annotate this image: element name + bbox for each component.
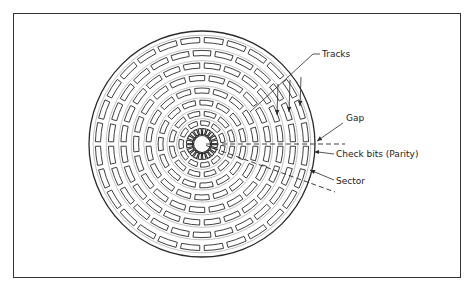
sector-block xyxy=(230,162,241,175)
sector-block xyxy=(95,123,102,142)
sector-block xyxy=(182,179,196,187)
sector-block xyxy=(254,204,271,219)
sector-block xyxy=(227,236,246,247)
label-tracks: Tracks xyxy=(321,49,351,59)
sector-block xyxy=(170,78,186,88)
sector-block xyxy=(95,146,102,165)
sector-block xyxy=(204,243,223,250)
sector-block xyxy=(216,103,229,114)
gap-arrow-arrowhead xyxy=(317,136,322,141)
sector-block xyxy=(120,209,137,226)
sector-block xyxy=(120,62,137,79)
sector-block xyxy=(276,125,283,142)
sector-block xyxy=(263,126,270,142)
sector-block xyxy=(227,130,234,142)
sector-block xyxy=(188,111,200,118)
sector-block xyxy=(242,110,253,125)
sector-block xyxy=(175,160,186,171)
sector-block xyxy=(251,146,258,161)
sector-block xyxy=(243,92,257,107)
sector-block xyxy=(218,117,229,128)
label-sector: Sector xyxy=(336,176,365,186)
disk-diagram: Tracks Gap Check bits (Parity) Sector xyxy=(0,0,472,288)
sector-block xyxy=(182,101,196,109)
sector-block xyxy=(224,66,241,77)
sector-block xyxy=(242,199,258,213)
sector-block xyxy=(195,195,210,200)
sector-block xyxy=(227,146,234,158)
sector-block xyxy=(188,121,198,128)
sector-block xyxy=(254,68,271,83)
sector-block xyxy=(181,243,200,250)
sector-block xyxy=(161,178,175,191)
sector-block xyxy=(99,100,110,119)
sector-block xyxy=(158,236,177,247)
label-check-bits: Check bits (Parity) xyxy=(336,149,418,159)
sector-block xyxy=(227,41,246,52)
sector-block xyxy=(201,121,210,127)
track-arrow-arrowhead xyxy=(275,110,279,115)
sector-block xyxy=(175,117,186,128)
sector-block xyxy=(235,57,253,70)
check-bits-line xyxy=(318,152,334,154)
sector-block xyxy=(204,37,223,44)
sector-block xyxy=(189,206,205,212)
sector-block xyxy=(124,166,135,183)
sector-block xyxy=(269,105,280,122)
sector-block xyxy=(169,146,176,158)
sector-block xyxy=(112,167,123,185)
sector-block xyxy=(151,218,169,231)
sector-block xyxy=(153,86,168,100)
sector-block xyxy=(183,218,200,225)
sector-block xyxy=(216,174,229,185)
sector-block xyxy=(150,110,161,125)
sector-block xyxy=(204,218,221,225)
sector-block xyxy=(195,88,210,93)
sector-block xyxy=(288,124,295,142)
sector-block xyxy=(242,75,258,89)
sector-block xyxy=(112,103,123,121)
sector-block xyxy=(201,162,210,168)
sector-block xyxy=(108,124,115,142)
sector-block xyxy=(257,184,271,200)
sector-block xyxy=(124,105,135,122)
sector-block xyxy=(146,75,162,89)
sector-block xyxy=(189,75,205,81)
sector-block xyxy=(121,125,128,142)
sector-block xyxy=(276,146,283,163)
sector-block xyxy=(243,181,257,196)
sector-block xyxy=(209,204,225,212)
sector-block xyxy=(181,37,200,44)
sector-block xyxy=(161,97,175,110)
sector-block xyxy=(200,182,213,188)
sector-block xyxy=(169,130,176,142)
sector-block xyxy=(288,146,295,164)
sector-block xyxy=(224,211,241,222)
sector-block xyxy=(230,113,241,126)
sector-block xyxy=(163,66,180,77)
sector-block xyxy=(218,160,229,171)
sector-block xyxy=(133,184,147,200)
sector-block xyxy=(256,165,267,181)
sector-block xyxy=(108,146,115,164)
sector-block xyxy=(257,88,271,104)
sector-block xyxy=(301,146,308,165)
sector-block xyxy=(121,146,128,163)
sector-block xyxy=(146,199,162,213)
sector-block xyxy=(193,50,211,56)
sector-block xyxy=(170,200,186,210)
sector-block xyxy=(188,169,200,176)
sector-block xyxy=(219,146,226,155)
sector-block xyxy=(219,133,226,142)
sector-block xyxy=(209,76,225,84)
sector-block xyxy=(294,169,305,188)
sector-block xyxy=(227,195,243,207)
sector-block xyxy=(188,159,198,166)
sector-block xyxy=(158,41,177,52)
sector-block xyxy=(99,169,110,188)
sector-block xyxy=(146,146,153,161)
sector-block xyxy=(146,127,153,142)
sector-block xyxy=(301,123,308,142)
sector-block xyxy=(256,107,267,123)
sector-block xyxy=(263,146,270,162)
